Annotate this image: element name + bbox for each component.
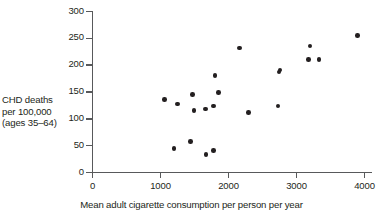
y-axis-tick xyxy=(86,145,92,146)
y-axis-tick-label: 300 xyxy=(58,6,84,16)
y-axis-title-line-2: per 100,000 xyxy=(2,106,64,118)
data-point xyxy=(278,68,283,73)
y-axis-title: CHD deaths per 100,000 (ages 35–64) xyxy=(2,94,64,129)
x-axis-tick-label: 3000 xyxy=(277,180,317,191)
data-point xyxy=(355,33,360,38)
data-point xyxy=(308,44,313,49)
x-axis-tick xyxy=(364,172,365,178)
y-axis-tick xyxy=(86,118,92,119)
data-point xyxy=(172,146,177,151)
scatter-plot-figure: CHD deaths per 100,000 (ages 35–64) 0501… xyxy=(0,0,383,217)
data-point xyxy=(175,102,180,107)
data-point xyxy=(211,104,216,109)
data-point xyxy=(213,73,218,78)
data-point xyxy=(190,92,195,97)
y-axis-tick xyxy=(86,11,92,12)
y-axis-tick-label: 100 xyxy=(58,113,84,123)
data-point xyxy=(188,139,193,144)
x-axis-title: Mean adult cigarette consumption per per… xyxy=(0,199,383,210)
data-point xyxy=(216,90,221,95)
y-axis-tick-label: 250 xyxy=(58,32,84,42)
x-axis-tick xyxy=(92,172,93,178)
data-point xyxy=(246,110,251,115)
y-axis-tick xyxy=(86,91,92,92)
y-axis-tick xyxy=(86,64,92,65)
y-axis-title-line-3: (ages 35–64) xyxy=(2,117,64,129)
x-axis-tick-label: 1000 xyxy=(141,180,181,191)
data-point xyxy=(211,148,216,153)
x-axis-tick xyxy=(160,172,161,178)
data-point xyxy=(204,152,209,157)
x-axis-line xyxy=(92,172,372,173)
data-point xyxy=(192,108,197,113)
data-point xyxy=(162,97,167,102)
x-axis-tick xyxy=(228,172,229,178)
y-axis-tick-label: 50 xyxy=(58,140,84,150)
data-point xyxy=(203,107,208,112)
data-point xyxy=(276,104,281,109)
x-axis-tick-label: 4000 xyxy=(345,180,383,191)
data-point xyxy=(237,46,242,51)
data-point xyxy=(277,70,282,75)
y-axis-tick-label: 150 xyxy=(58,86,84,96)
x-axis-tick xyxy=(296,172,297,178)
y-axis-tick-label: 0 xyxy=(58,167,84,177)
y-axis-tick-label: 200 xyxy=(58,59,84,69)
data-point xyxy=(317,57,322,62)
y-axis-title-line-1: CHD deaths xyxy=(2,94,64,106)
x-axis-tick-label: 0 xyxy=(73,180,113,191)
data-point xyxy=(306,57,311,62)
y-axis-tick xyxy=(86,38,92,39)
x-axis-tick-label: 2000 xyxy=(209,180,249,191)
y-axis-line xyxy=(92,11,93,173)
